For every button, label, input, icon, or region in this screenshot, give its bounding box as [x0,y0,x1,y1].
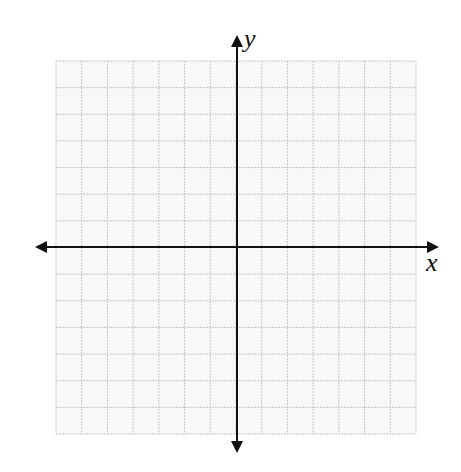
up-arrow-icon [231,35,243,47]
x-axis-label: x [426,250,438,276]
left-arrow-icon [35,241,47,253]
y-axis-label: y [244,26,256,52]
down-arrow-icon [231,441,243,453]
coordinate-plane [0,0,461,472]
